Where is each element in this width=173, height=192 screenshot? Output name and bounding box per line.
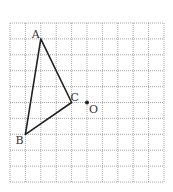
label-point-o: O bbox=[89, 103, 98, 116]
label-point-b: B bbox=[15, 134, 23, 147]
label-point-c: C bbox=[71, 91, 79, 104]
geometry-diagram: A B C O bbox=[0, 0, 173, 192]
label-point-a: A bbox=[31, 28, 41, 41]
